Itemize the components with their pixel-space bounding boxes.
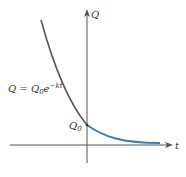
decay-curve-positive-t [87, 125, 160, 143]
decay-curve-negative-t [41, 20, 87, 125]
intercept-point [86, 124, 89, 127]
x-axis-label: t [175, 140, 180, 151]
y-axis-label: Q [91, 9, 99, 20]
intercept-label: Q0 [69, 120, 82, 133]
equation-label: Q = Q0e−kt [8, 82, 63, 96]
exponential-decay-figure: t Q Q = Q0e−kt Q0 [0, 0, 186, 177]
